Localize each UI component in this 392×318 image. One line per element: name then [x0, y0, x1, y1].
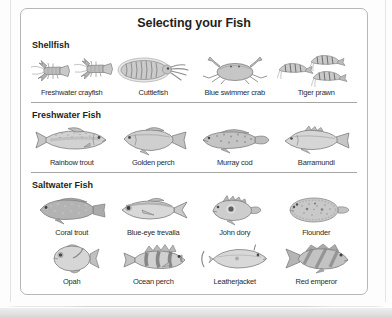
fish-item: Barramundi	[276, 121, 358, 170]
fish-label: Tiger prawn	[298, 88, 335, 97]
fish-item: John dory	[194, 191, 276, 240]
fish-label: Freshwater crayfish	[41, 88, 103, 97]
fish-label: Leatherjacket	[214, 277, 256, 286]
fish-item: Ocean perch	[113, 240, 195, 289]
leatherjacket-illustration	[197, 240, 273, 277]
john-dory-illustration	[203, 191, 267, 228]
fish-label: Blue swimmer crab	[205, 88, 265, 97]
fish-label: Ocean perch	[133, 277, 174, 286]
fish-item: Blue-eye trevalla	[113, 191, 195, 240]
fish-label: Rainbow trout	[50, 158, 94, 167]
section-saltwater-fish: Saltwater Fish Coral trout Blue-eye trev…	[31, 172, 357, 289]
fish-label: Blue-eye trevalla	[127, 228, 179, 237]
fish-item: Tiger prawn	[276, 51, 358, 100]
fish-item: Blue swimmer crab	[194, 51, 276, 100]
crayfish-illustration	[30, 51, 114, 88]
fish-grid: Freshwater crayfish Cuttlefish Blue swim…	[31, 51, 357, 100]
murray-cod-illustration	[197, 121, 273, 158]
fish-label: Cuttlefish	[139, 88, 168, 97]
page-bottom-strip	[0, 308, 392, 318]
fish-item: Cuttlefish	[113, 51, 195, 100]
section-freshwater-fish: Freshwater Fish Rainbow trout Golden per…	[31, 102, 357, 170]
red-emperor-illustration	[278, 240, 354, 277]
fish-item: Rainbow trout	[31, 121, 113, 170]
ocean-perch-illustration	[114, 240, 192, 277]
page-edge-right-line	[385, 0, 386, 302]
fish-item: Coral trout	[31, 191, 113, 240]
blue-eye-trevalla-illustration	[114, 191, 192, 228]
crab-illustration	[195, 51, 275, 88]
fish-label: Barramundi	[298, 158, 335, 167]
fish-label: Murray cod	[217, 158, 253, 167]
section-heading: Shellfish	[32, 40, 357, 50]
fish-label: Opah	[63, 277, 81, 286]
fish-item: Flounder	[276, 191, 358, 240]
rainbow-trout-illustration	[32, 121, 112, 158]
fish-item: Leatherjacket	[194, 240, 276, 289]
section-heading: Freshwater Fish	[32, 110, 357, 120]
fish-label: Red emperor	[295, 277, 337, 286]
coral-trout-illustration	[33, 191, 111, 228]
page-edge-left-line	[10, 0, 11, 302]
panel-title: Selecting your Fish	[31, 16, 357, 30]
sections-container: Shellfish Freshwater crayfish Cuttlefish…	[31, 33, 357, 289]
fish-item: Golden perch	[113, 121, 195, 170]
opah-illustration	[41, 240, 103, 277]
fish-grid: Coral trout Blue-eye trevalla John dory …	[31, 191, 357, 289]
prawn-illustration	[277, 51, 355, 88]
fish-item: Freshwater crayfish	[31, 51, 113, 100]
fish-item: Murray cod	[194, 121, 276, 170]
section-heading: Saltwater Fish	[32, 180, 357, 190]
fish-label: Coral trout	[55, 228, 88, 237]
section-shellfish: Shellfish Freshwater crayfish Cuttlefish…	[31, 33, 357, 100]
page-bottom-edge	[2, 306, 390, 307]
flounder-illustration	[280, 191, 352, 228]
fish-label: Flounder	[302, 228, 330, 237]
fish-label: Golden perch	[132, 158, 175, 167]
fish-label: John dory	[219, 228, 250, 237]
fish-item: Red emperor	[276, 240, 358, 289]
fish-grid: Rainbow trout Golden perch Murray cod Ba…	[31, 121, 357, 170]
golden-perch-illustration	[116, 121, 190, 158]
fish-item: Opah	[31, 240, 113, 289]
barramundi-illustration	[279, 121, 353, 158]
fish-guide-panel: Selecting your Fish Shellfish Freshwater…	[20, 8, 368, 295]
cuttlefish-illustration	[114, 51, 192, 88]
